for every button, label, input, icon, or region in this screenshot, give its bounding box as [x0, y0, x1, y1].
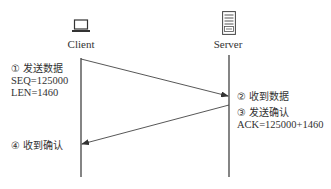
data-message-arrow [81, 59, 228, 96]
ack-message-arrow [82, 105, 229, 144]
server-label: Server [198, 38, 258, 50]
step2-title: ② 收到数据 [237, 91, 289, 103]
step1-seq: SEQ=125000 [11, 75, 68, 87]
step1-title: ① 发送数据 [11, 63, 63, 75]
client-label: Client [51, 38, 111, 50]
laptop-icon [72, 19, 90, 33]
step4-title: ④ 收到确认 [11, 140, 63, 152]
sequence-diagram: Client Server ① 发送数据 SEQ=125000 LEN=1460… [0, 0, 331, 189]
step3-title: ③ 发送确认 [237, 107, 289, 119]
step3-ack: ACK=125000+1460 [237, 119, 324, 131]
server-icon [222, 11, 236, 35]
step1-len: LEN=1460 [11, 87, 58, 99]
